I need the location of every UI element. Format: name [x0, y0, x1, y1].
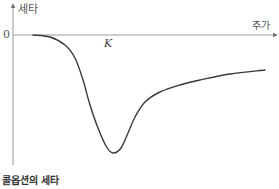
strike-price-label: K: [104, 38, 112, 49]
chart-caption: 콜옵션의 세타: [2, 176, 59, 186]
origin-zero-label: 0: [3, 29, 10, 40]
y-axis-label: 세타: [18, 4, 38, 15]
chart-canvas: [0, 0, 279, 189]
x-axis-label: 주가: [252, 21, 270, 31]
theta-curve: [33, 35, 265, 153]
